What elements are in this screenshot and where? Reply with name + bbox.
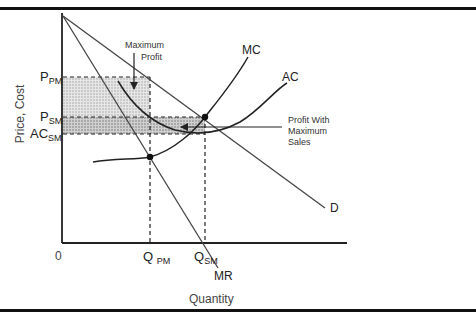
q-pm-label: Q PM (143, 250, 170, 266)
p-pm-label: PPM (40, 70, 62, 86)
profit-sales-annotation: Profit With Maximum Sales (288, 115, 330, 148)
economics-diagram (0, 0, 476, 318)
mc-label: MC (242, 44, 261, 56)
mc-mr-intersection (147, 154, 153, 160)
mr-label: MR (214, 270, 233, 282)
demand-label: D (330, 202, 339, 214)
y-axis-label: Price, Cost (14, 79, 26, 149)
ac-label: AC (282, 71, 299, 83)
origin-label: 0 (55, 250, 62, 262)
max-profit-area (63, 77, 150, 117)
ac-sm-label: ACSM (30, 127, 62, 143)
max-profit-annotation-2: Profit (141, 53, 162, 62)
max-profit-annotation: Maximum (125, 41, 164, 50)
mc-demand-intersection (202, 114, 208, 120)
q-sm-label: QSM (194, 250, 218, 266)
x-axis-label: Quantity (189, 293, 234, 305)
p-sm-label: PSM (40, 110, 62, 126)
